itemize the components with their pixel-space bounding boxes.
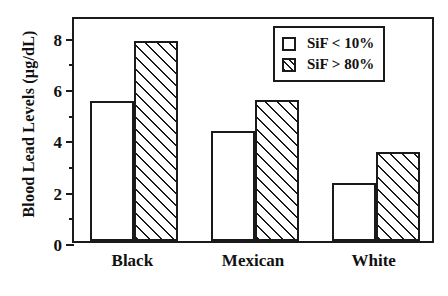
y-tick-label: 0: [54, 237, 63, 254]
y-tick-minor: [69, 116, 74, 118]
bar-black-series-1: [90, 101, 134, 241]
bar-mexican-series-2: [255, 100, 299, 241]
y-tick-minor: [69, 64, 74, 66]
bar-black-series-2: [134, 41, 178, 241]
y-tick-major: [66, 39, 74, 41]
y-tick-minor: [69, 218, 74, 220]
legend-item-sif-low: SiF < 10%: [282, 33, 374, 54]
bar-white-series-2: [376, 152, 420, 241]
bar-mexican-series-1: [211, 131, 255, 241]
legend-label: SiF < 10%: [307, 36, 374, 51]
legend-label: SiF > 80%: [307, 57, 374, 72]
y-axis-title: Blood Lead Levels (µg/dL): [17, 9, 41, 239]
x-category-label-white: White: [351, 252, 395, 269]
y-tick-label: 2: [54, 185, 63, 202]
bar-chart: Blood Lead Levels (µg/dL) 02468 BlackMex…: [0, 0, 448, 296]
legend-item-sif-high: SiF > 80%: [282, 54, 374, 75]
empty-square-swatch: [282, 37, 296, 51]
y-tick-label: 4: [54, 134, 63, 151]
y-tick-label: 8: [54, 31, 63, 48]
x-category-label-black: Black: [112, 252, 154, 269]
y-tick-minor: [69, 167, 74, 169]
y-tick-major: [66, 193, 74, 195]
y-tick-label: 6: [54, 82, 63, 99]
y-tick-major: [66, 244, 74, 246]
hatched-square-swatch: [282, 58, 296, 72]
x-category-label-mexican: Mexican: [222, 252, 284, 269]
y-tick-major: [66, 90, 74, 92]
bar-white-series-1: [332, 183, 376, 241]
chart-legend: SiF < 10% SiF > 80%: [273, 26, 385, 82]
y-tick-major: [66, 141, 74, 143]
